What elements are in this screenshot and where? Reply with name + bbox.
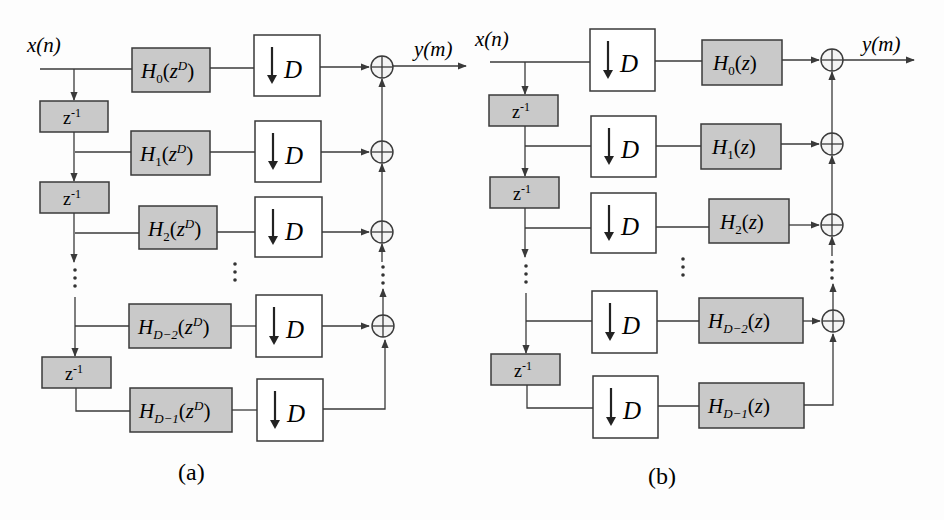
ellipsis-dot — [681, 273, 685, 277]
input-label-b: x(n) — [474, 27, 509, 51]
ellipsis-dot — [681, 257, 685, 261]
panel-b: x(n) z-1 z-1 z-1 D — [474, 27, 914, 489]
svg-text:D: D — [621, 312, 640, 339]
filter-block-h1-z: H1(z) — [701, 124, 781, 169]
polyphase-decimator-diagram: x(n) z-1 z-1 z-1 H0(zD) — [0, 0, 944, 520]
adder — [821, 49, 843, 71]
filter-block-h1-zD: H1(zD) — [131, 131, 210, 175]
svg-text:D: D — [286, 400, 305, 427]
ellipsis-dot — [830, 268, 834, 272]
filter-block-h2-zD: H2(zD) — [139, 206, 217, 249]
adder — [821, 214, 843, 236]
ellipsis-dot — [73, 268, 77, 272]
ellipsis-dot — [233, 262, 237, 266]
svg-text:D: D — [620, 136, 639, 163]
branch-wire — [527, 385, 593, 408]
adder — [371, 56, 393, 78]
downsampler-block: D — [590, 29, 655, 91]
downsampler-block: D — [593, 376, 658, 438]
adder — [821, 133, 843, 155]
caption-a: (a) — [178, 459, 205, 485]
delay-block: z-1 — [40, 101, 108, 132]
downsampler-block: D — [257, 379, 323, 441]
svg-text:H1(z): H1(z) — [711, 135, 756, 162]
ellipsis-dot — [830, 260, 834, 264]
delay-block: z-1 — [491, 354, 560, 385]
caption-b: (b) — [648, 463, 676, 489]
svg-text:D: D — [285, 316, 304, 343]
svg-text:H0(z): H0(z) — [712, 51, 757, 78]
delay-block: z-1 — [42, 357, 111, 388]
svg-text:D: D — [620, 213, 639, 240]
adder — [371, 221, 393, 243]
svg-text:D: D — [283, 56, 302, 83]
ellipsis-dot — [381, 273, 385, 277]
wire — [323, 340, 385, 409]
delay-block: z-1 — [40, 182, 109, 213]
filter-block-h0-zD: H0(zD) — [132, 48, 210, 92]
downsampler-block: D — [591, 116, 656, 177]
ellipsis-dot — [73, 284, 77, 288]
svg-text:H2(z): H2(z) — [719, 210, 764, 237]
downsampler-block: D — [254, 35, 320, 96]
filter-block-hD-2-zD: HD−2(zD) — [129, 304, 231, 348]
ellipsis-dot — [233, 270, 237, 274]
ellipsis-dot — [381, 281, 385, 285]
branch-wire — [76, 388, 130, 411]
downsampler-block: D — [255, 197, 322, 257]
output-label-a: y(m) — [412, 37, 452, 61]
ellipsis-dot — [233, 278, 237, 282]
downsampler-block: D — [255, 121, 321, 182]
wire — [804, 334, 833, 405]
downsampler-block: D — [256, 295, 322, 357]
ellipsis-dot — [524, 264, 528, 268]
ellipsis-dot — [524, 280, 528, 284]
filter-block-hD-1-z: HD−1(z) — [699, 383, 804, 428]
delay-block: z-1 — [489, 95, 558, 126]
adder — [822, 310, 844, 332]
svg-text:D: D — [619, 50, 638, 77]
svg-text:D: D — [284, 142, 303, 169]
filter-block-hD-2-z: HD−2(z) — [699, 298, 803, 343]
ellipsis-dot — [681, 265, 685, 269]
filter-block-hD-1-zD: HD−1(zD) — [130, 388, 232, 432]
svg-text:D: D — [622, 397, 641, 424]
adder — [371, 141, 393, 163]
ellipsis-dot — [524, 272, 528, 276]
downsampler-block: D — [591, 193, 656, 253]
output-label-b: y(m) — [860, 32, 900, 56]
downsampler-block: D — [592, 291, 657, 353]
filter-block-h0-z: H0(z) — [702, 40, 782, 85]
delay-block: z-1 — [490, 177, 559, 208]
panel-a: x(n) z-1 z-1 z-1 H0(zD) — [26, 33, 466, 485]
filter-block-h2-z: H2(z) — [709, 199, 789, 243]
ellipsis-dot — [830, 276, 834, 280]
adder — [372, 315, 394, 337]
input-label-a: x(n) — [26, 33, 61, 57]
svg-text:D: D — [284, 218, 303, 245]
ellipsis-dot — [73, 276, 77, 280]
ellipsis-dot — [381, 265, 385, 269]
